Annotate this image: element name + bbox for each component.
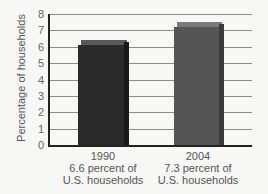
category-line2: U.S. households xyxy=(143,174,253,186)
category-line1: 7.3 percent of xyxy=(143,162,253,174)
y-tick-6: 6 xyxy=(34,41,44,53)
category-label-2004: 2004 7.3 percent of U.S. households xyxy=(143,150,253,186)
bar-chart: Percentage of households 8 7 6 5 4 3 2 1… xyxy=(0,0,268,194)
y-tick-7: 7 xyxy=(34,24,44,36)
gridline-8 xyxy=(49,14,252,15)
y-tick-5: 5 xyxy=(34,57,44,69)
y-tick-2: 2 xyxy=(34,106,44,118)
category-line2: U.S. households xyxy=(48,174,158,186)
y-tick-3: 3 xyxy=(34,90,44,102)
y-tick-8: 8 xyxy=(34,8,44,20)
y-tick-1: 1 xyxy=(34,123,44,135)
category-year: 2004 xyxy=(143,150,253,162)
y-tick-4: 4 xyxy=(34,74,44,86)
bar-2004 xyxy=(174,27,219,145)
y-axis xyxy=(48,14,50,146)
category-year: 1990 xyxy=(48,150,158,162)
bar-side-face xyxy=(219,24,224,145)
x-axis xyxy=(48,145,252,147)
category-line1: 6.6 percent of xyxy=(48,162,158,174)
bar-front-face xyxy=(174,27,219,145)
y-axis-label: Percentage of households xyxy=(15,13,27,143)
bar-front-face xyxy=(78,45,124,145)
category-label-1990: 1990 6.6 percent of U.S. households xyxy=(48,150,158,186)
y-tick-0: 0 xyxy=(34,139,44,151)
bar-side-face xyxy=(124,42,129,145)
bar-1990 xyxy=(78,45,124,145)
